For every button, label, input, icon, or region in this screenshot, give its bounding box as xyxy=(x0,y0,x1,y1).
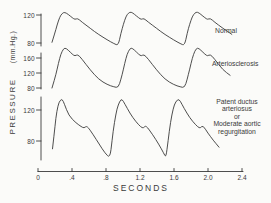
panel-label-pda-regurgitation: Patent ductus arteriosus or Moderate aor… xyxy=(203,98,271,135)
pda-label-line: Patent ductus xyxy=(203,98,271,105)
x-tick-label: 0 xyxy=(30,174,46,181)
y-axis-bottom xyxy=(37,97,42,160)
pda-label-line: Moderate aortic xyxy=(203,120,271,127)
pda-label-line: regurgitation xyxy=(203,128,271,135)
pressure-waveform-figure: 120 80 160 120 80 120 80 0 .4 .8 1.2 1.6… xyxy=(0,0,271,203)
panel-label-normal: Normal xyxy=(215,27,237,34)
normal-waveform xyxy=(52,12,232,44)
y-tick-label: 120 xyxy=(19,107,35,114)
arteriosclerosis-waveform xyxy=(52,48,230,88)
pda-label-line: or xyxy=(203,113,271,120)
y-tick-label: 160 xyxy=(19,55,35,62)
y-axis-top xyxy=(37,14,42,46)
y-tick-label: 120 xyxy=(19,12,35,19)
pda-label-line: arteriosus xyxy=(203,105,271,112)
x-tick-label: .8 xyxy=(98,174,114,181)
y-axis-middle xyxy=(37,53,42,89)
y-axis-units: (mm.Hg.) xyxy=(9,24,19,70)
x-tick-label: 2.0 xyxy=(200,174,216,181)
y-tick-label: 80 xyxy=(19,85,35,92)
x-tick-label: 1.2 xyxy=(132,174,148,181)
y-tick-label: 120 xyxy=(19,70,35,77)
x-tick-label: .4 xyxy=(64,174,80,181)
x-axis-title: SECONDS xyxy=(106,183,176,193)
y-tick-label: 80 xyxy=(19,40,35,47)
x-tick-label: 1.6 xyxy=(166,174,182,181)
y-axis-title: PRESSURE xyxy=(8,70,19,144)
x-tick-label: 2.4 xyxy=(234,174,250,181)
panel-label-arteriosclerosis: Arteriosclerosis xyxy=(212,60,258,67)
pda-regurgitation-waveform xyxy=(53,100,220,157)
x-axis xyxy=(38,169,243,172)
y-tick-label: 80 xyxy=(19,138,35,145)
